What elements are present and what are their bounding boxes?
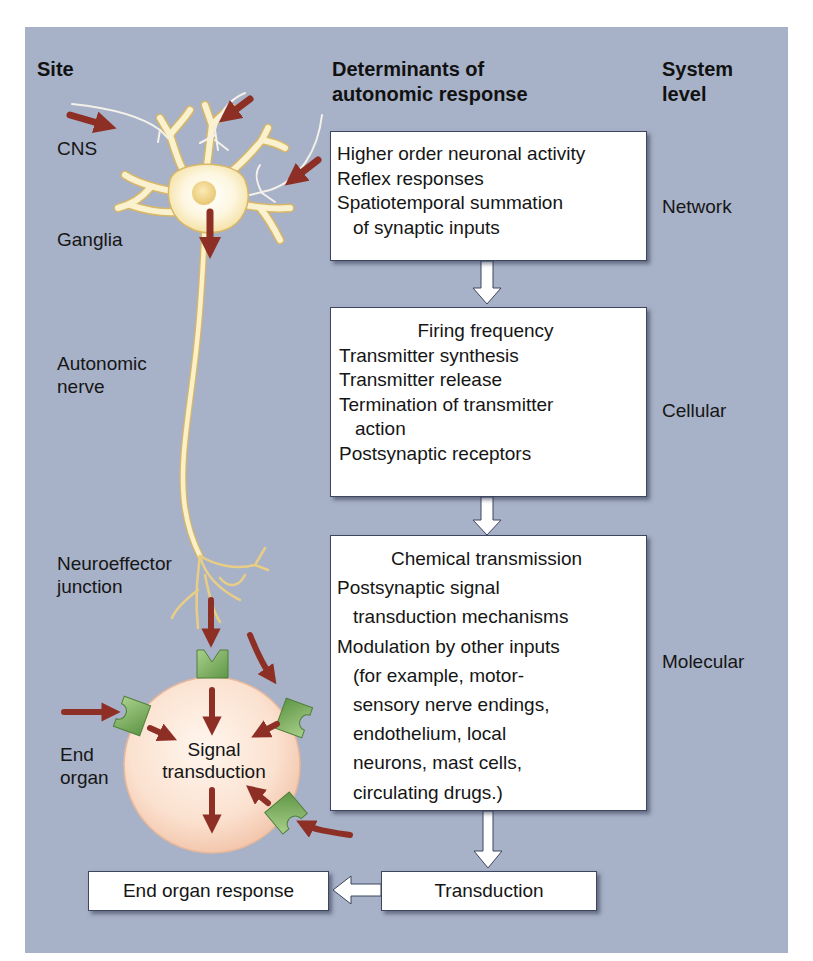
cellular-item: Firing frequency: [339, 319, 646, 344]
box-network-determinants: Higher order neuronal activity Reflex re…: [330, 131, 647, 261]
arrow-network-to-cellular-icon: [473, 261, 501, 304]
network-item: Reflex responses: [337, 167, 646, 192]
header-determinants-line1: Determinants of: [332, 57, 528, 82]
network-item: Spatiotemporal summation: [337, 191, 646, 216]
receptor-top-icon: [197, 650, 228, 678]
site-cns: CNS: [57, 137, 97, 160]
arrow-molecular-to-transduction-icon: [474, 811, 502, 868]
level-cellular: Cellular: [662, 399, 726, 422]
cellular-item: Postsynaptic receptors: [339, 442, 646, 467]
header-system-line1: System: [662, 57, 733, 82]
molecular-item: circulating drugs.): [337, 778, 646, 807]
signal-transduction-label: Signal transduction: [152, 739, 276, 783]
signal-transduction-line2: transduction: [152, 761, 276, 783]
site-end-organ: End organ: [60, 743, 109, 789]
cellular-item: Transmitter synthesis: [339, 344, 646, 369]
site-ganglia: Ganglia: [57, 228, 123, 251]
site-end-organ-line1: End: [60, 743, 109, 766]
arrow-cellular-to-molecular-icon: [473, 497, 501, 535]
site-neuroeffector-line2: junction: [57, 575, 172, 598]
molecular-item: Chemical transmission: [337, 544, 646, 573]
header-system-level: System level: [662, 57, 733, 107]
level-network: Network: [662, 195, 732, 218]
header-system-line2: level: [662, 82, 733, 107]
header-site: Site: [37, 57, 74, 82]
site-autonomic-nerve-line1: Autonomic: [57, 352, 147, 375]
site-end-organ-line2: organ: [60, 766, 109, 789]
molecular-item: endothelium, local: [337, 719, 646, 748]
cellular-item: action: [339, 417, 646, 442]
box-cellular-determinants: Firing frequency Transmitter synthesis T…: [330, 307, 647, 497]
molecular-item: Postsynaptic signal: [337, 573, 646, 602]
signal-transduction-line1: Signal: [152, 739, 276, 761]
box-end-organ-response: End organ response: [88, 871, 329, 911]
cellular-item: Termination of transmitter: [339, 393, 646, 418]
arrow-transduction-to-response-icon: [333, 876, 381, 904]
site-neuroeffector-line1: Neuroeffector: [57, 552, 172, 575]
molecular-item: Modulation by other inputs: [337, 632, 646, 661]
molecular-item: neurons, mast cells,: [337, 748, 646, 777]
box-transduction: Transduction: [381, 871, 597, 911]
header-determinants-line2: autonomic response: [332, 82, 528, 107]
level-molecular: Molecular: [662, 650, 744, 673]
network-item: Higher order neuronal activity: [337, 142, 646, 167]
molecular-item: sensory nerve endings,: [337, 690, 646, 719]
site-autonomic-nerve: Autonomic nerve: [57, 352, 147, 398]
molecular-item: transduction mechanisms: [337, 602, 646, 631]
site-autonomic-nerve-line2: nerve: [57, 375, 147, 398]
box-molecular-determinants: Chemical transmission Postsynaptic signa…: [330, 535, 647, 811]
network-item: of synaptic inputs: [337, 216, 646, 241]
cellular-item: Transmitter release: [339, 368, 646, 393]
molecular-item: (for example, motor-: [337, 661, 646, 690]
site-neuroeffector-junction: Neuroeffector junction: [57, 552, 172, 598]
header-determinants: Determinants of autonomic response: [332, 57, 528, 107]
